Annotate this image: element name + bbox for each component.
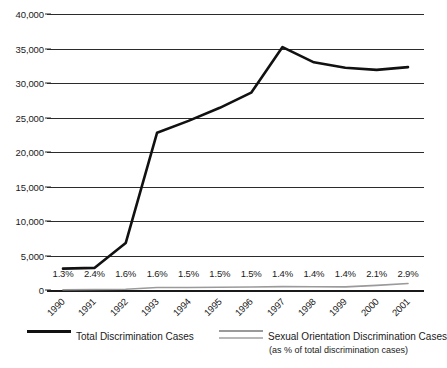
y-axis-tick-label: 40,000 xyxy=(0,9,44,20)
percent-label: 1.5% xyxy=(178,268,199,279)
percent-label: 2.1% xyxy=(366,268,387,279)
y-axis-tick-label: 15,000 xyxy=(0,181,44,192)
legend-sublabel-sexual-orientation: (as % of total discrimination cases) xyxy=(269,344,447,356)
series-line xyxy=(63,284,408,290)
x-axis-year-label: 2000 xyxy=(358,296,380,318)
percent-label: 1.3% xyxy=(53,268,74,279)
legend-label-total: Total Discrimination Cases xyxy=(76,331,194,342)
percent-label: 1.4% xyxy=(303,268,324,279)
figure-caption xyxy=(6,360,427,368)
y-axis-tick-label: 10,000 xyxy=(0,216,44,227)
x-axis-year-label: 1990 xyxy=(45,296,67,318)
x-axis-year-labels: 1990199119921993199419951996199719981999… xyxy=(47,292,424,324)
legend-item-sexual-orientation: Sexual Orientation Discrimination Cases … xyxy=(219,326,447,356)
series-lines xyxy=(47,14,424,290)
percent-label: 1.5% xyxy=(241,268,262,279)
chart-legend: Total Discrimination Cases Sexual Orient… xyxy=(0,326,433,356)
percent-label: 2.4% xyxy=(84,268,105,279)
legend-label-sexual-orientation: Sexual Orientation Discrimination Cases xyxy=(268,331,447,342)
y-axis-tick-label: 5,000 xyxy=(0,250,44,261)
y-axis-tick-mark xyxy=(45,48,51,49)
y-axis-tick-mark xyxy=(45,221,51,222)
x-axis-year-label: 1997 xyxy=(264,296,286,318)
y-axis-tick-mark xyxy=(45,83,51,84)
y-axis-tick-mark xyxy=(45,186,51,187)
legend-text-total: Total Discrimination Cases xyxy=(76,326,194,344)
y-axis-tick-label: 0 xyxy=(0,285,44,296)
x-axis-year-label: 1995 xyxy=(201,296,223,318)
percent-labels-row: 1.3%2.4%1.6%1.6%1.5%1.5%1.5%1.4%1.4%1.4%… xyxy=(47,268,424,282)
y-axis-tick-label: 30,000 xyxy=(0,78,44,89)
legend-item-total: Total Discrimination Cases xyxy=(27,326,194,344)
percent-label: 2.9% xyxy=(398,268,419,279)
y-axis-tick-label: 25,000 xyxy=(0,112,44,123)
percent-label: 1.5% xyxy=(209,268,230,279)
x-axis-year-label: 1992 xyxy=(107,296,129,318)
legend-swatch-total-icon xyxy=(27,330,71,333)
legend-swatch-sexual-orientation-icon xyxy=(219,330,263,339)
x-axis-year-label: 1998 xyxy=(296,296,318,318)
x-axis-year-label: 2001 xyxy=(390,296,412,318)
y-axis-tick-label: 20,000 xyxy=(0,147,44,158)
y-axis-tick-mark xyxy=(45,255,51,256)
percent-label: 1.4% xyxy=(272,268,293,279)
percent-label: 1.4% xyxy=(335,268,356,279)
x-axis-year-label: 1991 xyxy=(76,296,98,318)
y-axis-tick-label: 35,000 xyxy=(0,43,44,54)
y-axis-tick-mark xyxy=(45,290,51,291)
plot-area xyxy=(47,14,424,290)
x-axis-year-label: 1994 xyxy=(170,296,192,318)
y-axis-tick-mark xyxy=(45,117,51,118)
percent-label: 1.6% xyxy=(115,268,136,279)
series-line xyxy=(63,47,408,269)
percent-label: 1.6% xyxy=(147,268,168,279)
x-axis-year-label: 1999 xyxy=(327,296,349,318)
x-axis-year-label: 1996 xyxy=(233,296,255,318)
y-axis-tick-mark xyxy=(45,14,51,15)
legend-text-sexual-orientation: Sexual Orientation Discrimination Cases … xyxy=(268,326,447,356)
x-axis-year-label: 1993 xyxy=(139,296,161,318)
y-axis-tick-mark xyxy=(45,152,51,153)
